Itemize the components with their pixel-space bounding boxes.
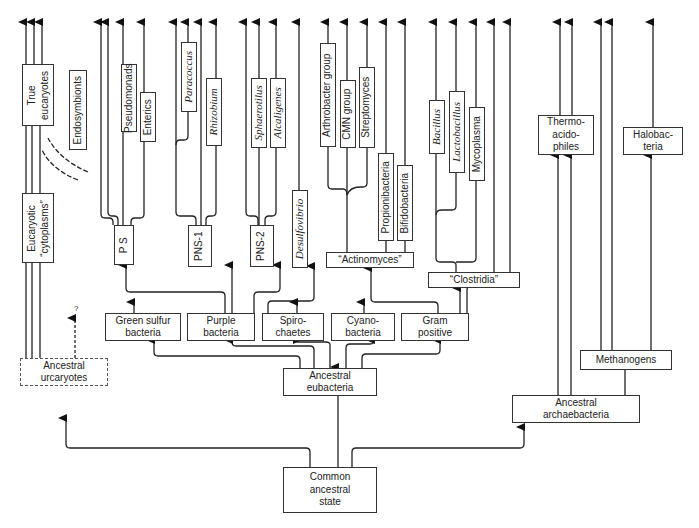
- node-gram-positive: Gram positive: [401, 313, 469, 341]
- node-ps: P S: [114, 225, 134, 265]
- node-thermoacidophiles: Thermo- acido- philes: [538, 115, 594, 155]
- node-common-ancestral-state: Common ancestral state: [283, 467, 377, 513]
- node-eucaryotic-cytoplasms: Eucaryotic “cytoplasms”: [22, 193, 54, 263]
- node-label: Spiro- chaetes: [275, 315, 310, 340]
- node-rhizobium: Rhizobium: [206, 78, 222, 146]
- node-label: Ancestral archaebacteria: [543, 397, 609, 422]
- node-label: Arthrobacter group: [322, 53, 335, 136]
- node-label: CMN group: [342, 88, 355, 139]
- node-spirochaetes: Spiro- chaetes: [262, 313, 324, 341]
- node-paracoccus: Paracoccus: [181, 42, 197, 112]
- phylogenetic-diagram: ? Common ancestral state Ancestral eubac…: [0, 0, 699, 528]
- node-lactobacillus: Lactobacillus: [449, 91, 465, 173]
- node-label: PNS-2: [256, 231, 269, 260]
- node-bifidobacteria: Bifidobacteria: [397, 165, 413, 241]
- node-desulfovibrio: Desulfovibrio: [292, 190, 308, 268]
- node-label: Eucaryotic “cytoplasms”: [26, 200, 51, 257]
- node-label: Halobac- teria: [633, 129, 673, 154]
- node-ancestral-urcaryotes: Ancestral urcaryotes: [20, 358, 108, 386]
- node-mycoplasma: Mycoplasma: [469, 107, 485, 181]
- node-label: Cyano- bacteria: [345, 315, 381, 340]
- node-cyanobacteria: Cyano- bacteria: [331, 313, 395, 341]
- node-actinomyces: “Actinomyces”: [326, 252, 414, 268]
- node-label: Thermo- acido- philes: [547, 116, 585, 154]
- node-purple-bacteria: Purple bacteria: [187, 313, 255, 341]
- question-mark: ?: [74, 304, 79, 313]
- node-enterics: Enterics: [140, 92, 156, 142]
- node-label: Purple bacteria: [203, 315, 239, 340]
- node-green-sulfur-bacteria: Green sulfur bacteria: [105, 313, 181, 341]
- node-label: True eucaryotes: [26, 71, 51, 120]
- node-label: Bacillus: [430, 109, 444, 145]
- node-label: P S: [118, 237, 131, 253]
- node-label: Mycoplasma: [471, 116, 484, 172]
- node-pns-1: PNS-1: [188, 225, 212, 267]
- node-label: Sphaerotilus: [252, 85, 266, 140]
- node-propionibacteria: Propionibacteria: [378, 153, 394, 241]
- node-halobacteria: Halobac- teria: [623, 127, 683, 155]
- node-label: Ancestral eubacteria: [307, 370, 354, 395]
- node-bacillus: Bacillus: [429, 100, 445, 154]
- node-arthrobacter-group: Arthrobacter group: [320, 43, 336, 147]
- node-label: Desulfovibrio: [293, 199, 307, 260]
- node-streptomyces: Streptomyces: [359, 67, 375, 148]
- node-label: Endosymbionts: [72, 76, 85, 144]
- node-true-eucaryotes: True eucaryotes: [22, 64, 54, 126]
- node-label: Bifidobacteria: [399, 173, 412, 234]
- node-ancestral-eubacteria: Ancestral eubacteria: [283, 368, 377, 396]
- node-pns-2: PNS-2: [250, 225, 274, 267]
- node-label: Alcaligenes: [271, 87, 285, 138]
- node-label: “Actinomyces”: [338, 254, 401, 267]
- node-label: Ancestral urcaryotes: [41, 360, 88, 385]
- node-clostridia: “Clostridia”: [428, 272, 520, 288]
- node-label: Green sulfur bacteria: [115, 315, 170, 340]
- node-label: Pseudomonads: [123, 63, 136, 133]
- node-label: Gram positive: [418, 315, 452, 340]
- node-label: Propionibacteria: [380, 161, 393, 233]
- node-label: Enterics: [142, 99, 155, 135]
- node-label: PNS-1: [194, 231, 207, 260]
- node-label: Lactobacillus: [450, 102, 464, 162]
- node-sphaerotilus: Sphaerotilus: [251, 78, 267, 148]
- node-label: “Clostridia”: [450, 274, 498, 287]
- node-cmn-group: CMN group: [340, 80, 356, 148]
- node-pseudomonads: Pseudomonads: [121, 64, 137, 132]
- node-alcaligenes: Alcaligenes: [270, 78, 286, 148]
- node-label: Rhizobium: [207, 88, 221, 135]
- node-label: Paracoccus: [182, 51, 196, 103]
- node-label: Methanogens: [596, 354, 657, 367]
- node-ancestral-archaebacteria: Ancestral archaebacteria: [512, 395, 640, 423]
- node-methanogens: Methanogens: [580, 350, 672, 370]
- node-label: Common ancestral state: [310, 471, 351, 509]
- node-endosymbionts: Endosymbionts: [69, 70, 87, 150]
- node-label: Streptomyces: [361, 77, 374, 138]
